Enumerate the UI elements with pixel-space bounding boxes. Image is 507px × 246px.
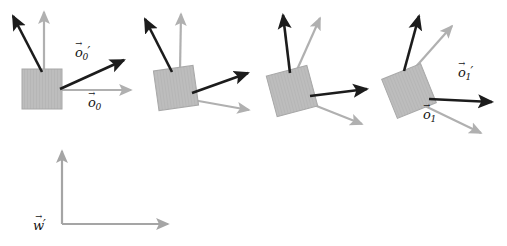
label-o0-sub: 0 [95,102,101,112]
label-o1-sub: 1 [430,114,436,124]
light-arrow-up [180,14,181,71]
label-o1: o1 [423,108,437,122]
label-o1-prime-mark: ′ [470,65,473,79]
label-o0-prime-mark: ′ [87,45,90,59]
label-w-prime-mark: ′ [43,218,46,232]
body-square [153,65,198,110]
label-w-prime: w′ [33,219,47,233]
label-o0-prime: o0′ [75,46,91,60]
label-o0: o0 [88,96,102,110]
body-square [22,69,62,109]
label-o1-prime: o1′ [458,66,474,80]
